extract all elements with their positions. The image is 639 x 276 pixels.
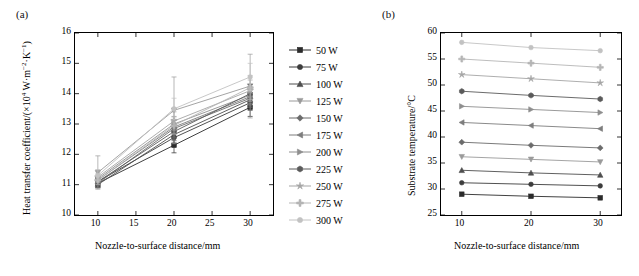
x-axis-title-b: Nozzle-to-surface distance/mm: [454, 240, 579, 251]
y-tick-label: 16: [57, 26, 71, 36]
legend-swatch-50-w: [288, 44, 312, 56]
panel-b-label: (b): [382, 8, 395, 20]
legend-label: 200 W: [316, 147, 343, 158]
plot-area-a: [74, 32, 274, 216]
legend-label: 225 W: [316, 164, 343, 175]
x-tick-label: 30: [243, 218, 253, 228]
legend-item: 200 W: [288, 144, 343, 160]
legend-swatch-175-w: [288, 129, 312, 141]
legend-a: 50 W75 W100 W125 W150 W175 W200 W225 W25…: [288, 42, 343, 228]
legend-item: 225 W: [288, 161, 343, 177]
legend-item: 150 W: [288, 110, 343, 126]
y-tick-label: 12: [57, 147, 71, 157]
legend-label: 300 W: [316, 215, 343, 226]
legend-item: 125 W: [288, 93, 343, 109]
legend-item: 175 W: [288, 127, 343, 143]
x-tick-label: 25: [205, 218, 215, 228]
legend-swatch-150-w: [288, 112, 312, 124]
x-tick-label: 10: [455, 218, 465, 228]
y-tick-label: 14: [57, 87, 71, 97]
plot-area-b: [440, 32, 622, 216]
legend-swatch-225-w: [288, 163, 312, 175]
y-tick-label: 10: [57, 208, 71, 218]
legend-label: 175 W: [316, 130, 343, 141]
legend-item: 300 W: [288, 212, 343, 228]
panel-a-label: (a): [16, 8, 28, 20]
y-axis-title-a: Heat transfer coefficient/(×104 W·m−2·K−…: [20, 41, 32, 215]
y-tick-label: 11: [57, 178, 71, 188]
legend-label: 75 W: [316, 62, 338, 73]
legend-item: 75 W: [288, 59, 343, 75]
legend-swatch-300-w: [288, 214, 312, 226]
x-axis-title-a: Nozzle-to-surface distance/mm: [95, 240, 220, 251]
x-tick-label: 10: [91, 218, 101, 228]
legend-label: 125 W: [316, 96, 343, 107]
legend-label: 150 W: [316, 113, 343, 124]
x-tick-label: 20: [524, 218, 534, 228]
x-tick-label: 20: [167, 218, 177, 228]
y-tick-label: 13: [57, 117, 71, 127]
legend-label: 50 W: [316, 45, 338, 56]
figure-container: (a) Heat transfer coefficient/(×104 W·m−…: [0, 0, 639, 276]
y-tick-label: 25: [423, 208, 437, 218]
legend-item: 50 W: [288, 42, 343, 58]
y-tick-label: 35: [423, 156, 437, 166]
legend-item: 250 W: [288, 178, 343, 194]
legend-swatch-125-w: [288, 95, 312, 107]
x-tick-label: 30: [593, 218, 603, 228]
legend-swatch-75-w: [288, 61, 312, 73]
legend-swatch-100-w: [288, 78, 312, 90]
legend-swatch-275-w: [288, 197, 312, 209]
y-tick-label: 60: [423, 26, 437, 36]
y-axis-title-b: Substrate temperature/°C: [406, 95, 417, 196]
y-tick-label: 55: [423, 52, 437, 62]
y-tick-label: 15: [57, 56, 71, 66]
legend-item: 275 W: [288, 195, 343, 211]
legend-label: 275 W: [316, 198, 343, 209]
y-tick-label: 45: [423, 104, 437, 114]
legend-label: 100 W: [316, 79, 343, 90]
legend-swatch-250-w: [288, 180, 312, 192]
y-tick-label: 50: [423, 78, 437, 88]
y-tick-label: 40: [423, 130, 437, 140]
legend-label: 250 W: [316, 181, 343, 192]
y-tick-label: 30: [423, 182, 437, 192]
legend-item: 100 W: [288, 76, 343, 92]
legend-swatch-200-w: [288, 146, 312, 158]
x-tick-label: 15: [129, 218, 139, 228]
